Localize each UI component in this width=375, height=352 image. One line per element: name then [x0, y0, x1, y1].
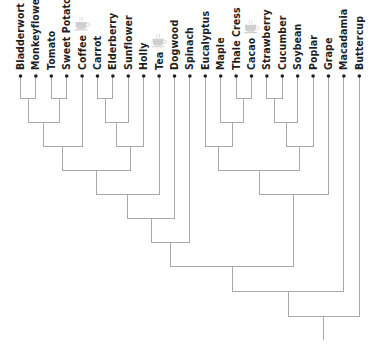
- leaf-dot: [127, 74, 131, 78]
- leaf-eucalyptus: Eucalyptus: [199, 11, 211, 78]
- coffee-cup-icon: [75, 17, 90, 31]
- leaf-label: Eucalyptus: [199, 11, 211, 70]
- leaf-label: Spinach: [183, 27, 195, 70]
- leaf-carrot: Carrot: [91, 35, 103, 77]
- leaf-spinach: Spinach: [183, 27, 195, 78]
- leaf-dot: [50, 74, 54, 78]
- leaf-label: Holly: [137, 42, 149, 70]
- leaf-label: Elderberry: [106, 13, 118, 70]
- leaf-label: Strawberry: [260, 9, 272, 70]
- leaf-dot: [142, 74, 146, 78]
- leaf-label: Thale Cress: [230, 7, 242, 70]
- leaf-label: Cucumber: [276, 15, 288, 70]
- coffee-cup-icon: [152, 34, 167, 48]
- leaf-label: Tea: [153, 52, 165, 70]
- leaf-dot: [80, 74, 84, 78]
- leaf-label: Bladderwort: [14, 3, 26, 70]
- leaf-poplar: Poplar: [307, 35, 319, 78]
- leaf-dot: [19, 74, 23, 78]
- leaf-holly: Holly: [137, 42, 149, 77]
- leaf-dot: [96, 74, 100, 78]
- leaf-label: Grape: [322, 38, 334, 70]
- leaf-dot: [342, 74, 346, 78]
- leaf-label: Dogwood: [168, 20, 180, 70]
- leaf-label: Sweet Potato: [60, 0, 72, 70]
- leaf-dot: [65, 74, 69, 78]
- leaf-dot: [234, 74, 238, 78]
- leaf-sunflower: Sunflower: [122, 15, 134, 78]
- coffee-cup-icon: [244, 20, 259, 34]
- leaf-sweet-potato: Sweet Potato: [60, 0, 72, 78]
- leaf-macadamia: Macadamia: [337, 9, 349, 78]
- leaf-tomato: Tomato: [45, 30, 57, 78]
- tree-leaves: BladderwortMonkeyflowerTomatoSweet Potat…: [14, 0, 365, 78]
- leaf-cacao: Cacao: [245, 37, 257, 77]
- leaf-label: Tomato: [45, 30, 57, 70]
- leaf-dot: [296, 74, 300, 78]
- leaf-grape: Grape: [322, 38, 334, 78]
- leaf-label: Carrot: [91, 35, 103, 70]
- leaf-label: Coffee: [76, 35, 88, 70]
- leaf-elderberry: Elderberry: [106, 13, 118, 78]
- leaf-label: Cacao: [245, 37, 257, 70]
- leaf-dot: [204, 74, 208, 78]
- leaf-dot: [250, 74, 254, 78]
- leaf-dot: [311, 74, 315, 78]
- leaf-dot: [111, 74, 115, 78]
- leaf-tea: Tea: [153, 52, 165, 78]
- leaf-label: Soybean: [291, 24, 303, 70]
- leaf-dot: [265, 74, 269, 78]
- leaf-coffee: Coffee: [76, 35, 88, 78]
- leaf-monkeyflower: Monkeyflower: [29, 0, 41, 78]
- leaf-label: Monkeyflower: [29, 0, 41, 70]
- leaf-dot: [358, 74, 362, 78]
- leaf-label: Macadamia: [337, 9, 349, 70]
- leaf-dot: [327, 74, 331, 78]
- leaf-label: Poplar: [307, 35, 319, 70]
- leaf-dot: [281, 74, 285, 78]
- leaf-strawberry: Strawberry: [260, 9, 272, 78]
- leaf-label: Sunflower: [122, 15, 134, 70]
- leaf-bladderwort: Bladderwort: [14, 3, 26, 78]
- leaf-dot: [219, 74, 223, 78]
- leaf-thale-cress: Thale Cress: [230, 7, 242, 78]
- leaf-cucumber: Cucumber: [276, 15, 288, 77]
- leaf-dot: [34, 74, 38, 78]
- leaf-maple: Maple: [214, 37, 226, 77]
- leaf-soybean: Soybean: [291, 24, 303, 78]
- leaf-dogwood: Dogwood: [168, 20, 180, 78]
- leaf-label: Buttercup: [353, 16, 365, 70]
- leaf-dot: [157, 74, 161, 78]
- tree-canvas: BladderwortMonkeyflowerTomatoSweet Potat…: [0, 0, 375, 352]
- leaf-buttercup: Buttercup: [353, 16, 365, 78]
- phylogenetic-tree-diagram: BladderwortMonkeyflowerTomatoSweet Potat…: [0, 0, 375, 352]
- leaf-dot: [188, 74, 192, 78]
- leaf-dot: [173, 74, 177, 78]
- tree-edges: [21, 77, 360, 340]
- leaf-label: Maple: [214, 37, 226, 70]
